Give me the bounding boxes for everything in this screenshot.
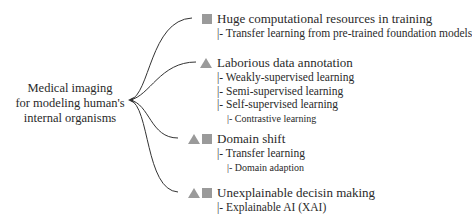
branch-child: |- Weakly-supervised learning: [180, 71, 354, 85]
gray-square-icon: [202, 14, 212, 24]
branch-data-annotation: Laborious data annotation |- Weakly-supe…: [180, 55, 354, 125]
gray-triangle-icon: [188, 134, 200, 144]
gray-square-icon: [202, 188, 212, 198]
gray-triangle-icon: [200, 58, 212, 68]
branch-title: Unexplainable decisin making: [217, 186, 375, 200]
branch-grandchild: |- Domain adaption: [180, 161, 305, 174]
branch-computational-resources: Huge computational resources in training…: [180, 11, 472, 41]
branch-child: |- Transfer learning: [180, 147, 305, 161]
branch-title: Huge computational resources in training: [217, 12, 432, 26]
branch-unexplainable-decision: Unexplainable decisin making |- Explaina…: [180, 185, 375, 215]
branch-child: |- Explainable AI (XAI): [180, 201, 375, 215]
branch-grandchild: |- Contrastive learning: [180, 112, 354, 125]
branch-child: |- Transfer learning from pre-trained fo…: [180, 27, 472, 41]
branch-child: |- Semi-supervised learning: [180, 85, 354, 99]
gray-square-icon: [202, 134, 212, 144]
connector-branch-3: [130, 100, 178, 138]
gray-triangle-icon: [188, 188, 200, 198]
branch-title: Laborious data annotation: [217, 56, 353, 70]
root-arrow-icon: [128, 97, 134, 103]
branch-title: Domain shift: [217, 132, 285, 146]
connector-branch-4: [130, 100, 178, 192]
branch-domain-shift: Domain shift |- Transfer learning |- Dom…: [180, 131, 305, 174]
branch-child: |- Self-supervised learning: [180, 98, 354, 112]
